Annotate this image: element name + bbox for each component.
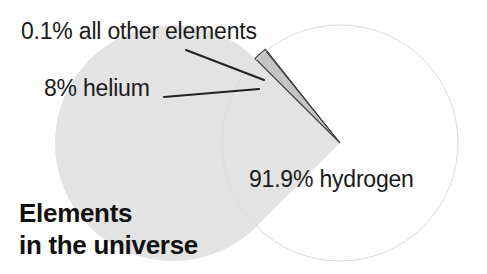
chart-title: Elements in the universe <box>19 198 198 261</box>
slice-label-hydrogen: 91.9% hydrogen <box>249 167 414 191</box>
chart-title-line-1: Elements <box>19 198 198 230</box>
pie-chart-figure: 0.1% all other elements 8% helium 91.9% … <box>0 0 487 274</box>
chart-title-line-2: in the universe <box>19 230 198 262</box>
slice-label-helium: 8% helium <box>44 76 150 100</box>
slice-label-other-elements: 0.1% all other elements <box>21 19 257 43</box>
